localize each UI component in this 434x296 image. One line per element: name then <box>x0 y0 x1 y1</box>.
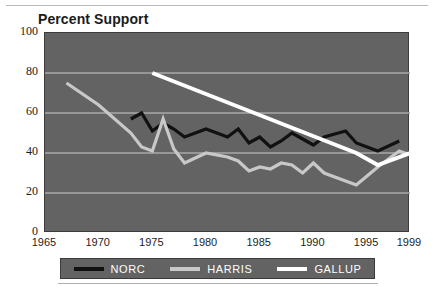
x-axis-tick-label: 1990 <box>289 236 335 248</box>
x-axis-tick-label: 1995 <box>343 236 389 248</box>
x-axis-tick-label: 1980 <box>182 236 228 248</box>
legend-label: NORC <box>111 263 146 275</box>
legend-label: GALLUP <box>314 263 361 275</box>
top-divider <box>6 5 428 6</box>
y-axis-tick-label: 20 <box>4 184 38 199</box>
x-axis-tick-label: 1965 <box>21 236 67 248</box>
page-title: Percent Support <box>38 11 148 27</box>
gridlines <box>45 73 410 193</box>
series-layer <box>66 73 410 185</box>
legend-swatch-icon <box>170 267 200 271</box>
x-axis-tick-label: 1970 <box>75 236 121 248</box>
series-line-harris <box>66 83 410 185</box>
plot-area <box>44 32 409 232</box>
x-axis-tick-label: 1999 <box>386 236 432 248</box>
y-axis-tick-label: 100 <box>4 24 38 39</box>
y-axis-tick-label: 80 <box>4 64 38 79</box>
legend-item-norc[interactable]: NORC <box>74 263 146 275</box>
series-line-gallup <box>152 73 410 165</box>
legend-swatch-icon <box>277 267 307 271</box>
bottom-divider <box>58 283 378 284</box>
chart-legend: NORCHARRISGALLUP <box>60 258 375 279</box>
y-axis-tick-label: 60 <box>4 104 38 119</box>
legend-item-gallup[interactable]: GALLUP <box>277 263 361 275</box>
y-axis-tick-label: 40 <box>4 144 38 159</box>
legend-label: HARRIS <box>207 263 252 275</box>
x-axis-tick-label: 1975 <box>128 236 174 248</box>
chart-svg <box>45 33 410 233</box>
legend-swatch-icon <box>74 267 104 271</box>
x-axis-tick-label: 1985 <box>236 236 282 248</box>
legend-item-harris[interactable]: HARRIS <box>170 263 252 275</box>
